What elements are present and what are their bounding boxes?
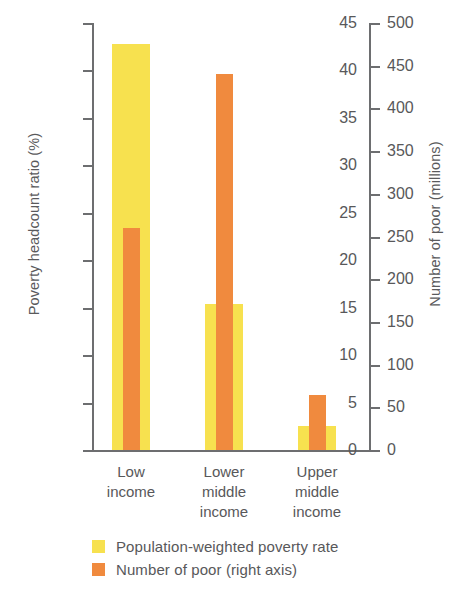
right-axis-tick	[371, 322, 380, 324]
right-axis-tick-label: 350	[387, 143, 435, 159]
right-axis-title: Number of poor (millions)	[427, 104, 443, 344]
left-axis-tick	[83, 260, 92, 262]
left-axis-tick-label: 20	[317, 252, 357, 268]
right-axis-tick-label: 200	[387, 271, 435, 287]
legend-label: Number of poor (right axis)	[116, 561, 297, 578]
left-axis-tick	[83, 403, 92, 405]
right-axis-tick-label: 150	[387, 314, 435, 330]
category-label-line: Lower	[174, 462, 274, 482]
legend-item: Number of poor (right axis)	[92, 561, 422, 578]
legend-item: Population-weighted poverty rate	[92, 538, 422, 555]
left-axis-tick	[83, 308, 92, 310]
category-label: Lowincome	[81, 462, 181, 502]
left-axis-tick	[83, 165, 92, 167]
right-axis-tick-label: 0	[387, 442, 435, 458]
right-axis-tick	[371, 23, 380, 25]
right-axis-tick	[371, 151, 380, 153]
category-label-line: middle	[267, 482, 367, 502]
category-label-line: income	[174, 502, 274, 522]
left-axis-title: Poverty headcount ratio (%)	[26, 104, 42, 344]
legend-swatch-icon	[92, 563, 105, 576]
right-axis-tick-label: 100	[387, 357, 435, 373]
bar-number-of-poor	[309, 395, 326, 451]
legend-swatch-icon	[92, 540, 105, 553]
right-axis-tick	[371, 66, 380, 68]
left-axis-tick	[83, 23, 92, 25]
right-axis-tick	[371, 407, 380, 409]
right-axis-tick-label: 50	[387, 399, 435, 415]
left-axis-tick-label: 30	[317, 157, 357, 173]
chart-figure: Poverty headcount ratio (%) Number of po…	[0, 0, 460, 595]
right-axis-tick	[371, 237, 380, 239]
category-label-line: income	[267, 502, 367, 522]
plot-area: 051015202530354045 050100150200250300350…	[92, 23, 371, 450]
right-axis-tick-label: 300	[387, 186, 435, 202]
left-axis-line	[92, 23, 94, 452]
right-axis-tick	[371, 450, 380, 452]
left-axis-tick	[83, 118, 92, 120]
left-axis-tick	[83, 70, 92, 72]
left-axis-tick-label: 40	[317, 62, 357, 78]
category-label-line: income	[81, 482, 181, 502]
left-axis-tick-label: 35	[317, 110, 357, 126]
legend-label: Population-weighted poverty rate	[116, 538, 339, 555]
left-axis-tick-label: 10	[317, 347, 357, 363]
left-axis-tick-label: 15	[317, 300, 357, 316]
right-axis-tick-label: 400	[387, 100, 435, 116]
bar-number-of-poor	[216, 74, 233, 450]
category-label-line: Low	[81, 462, 181, 482]
left-axis-tick	[83, 355, 92, 357]
category-label: Uppermiddleincome	[267, 462, 367, 521]
left-axis-tick	[83, 213, 92, 215]
left-axis-tick-label: 45	[317, 15, 357, 31]
right-axis-tick-label: 450	[387, 58, 435, 74]
category-label-line: middle	[174, 482, 274, 502]
bar-number-of-poor	[123, 228, 140, 450]
right-axis-tick	[371, 108, 380, 110]
right-axis-tick-label: 250	[387, 229, 435, 245]
right-axis-tick-label: 500	[387, 15, 435, 31]
right-axis-tick	[371, 365, 380, 367]
right-axis-tick	[371, 194, 380, 196]
left-axis-tick	[83, 450, 92, 452]
chart-legend: Population-weighted poverty rateNumber o…	[92, 538, 422, 584]
category-label-line: Upper	[267, 462, 367, 482]
right-axis-tick	[371, 279, 380, 281]
left-axis-tick-label: 25	[317, 205, 357, 221]
category-label: Lowermiddleincome	[174, 462, 274, 521]
